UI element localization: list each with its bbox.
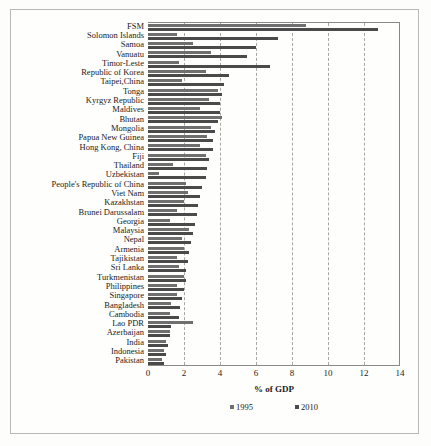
bar-1995: [148, 182, 186, 185]
bar-2010: [148, 65, 270, 68]
bar-1995: [148, 349, 164, 352]
bar-rows: [148, 23, 399, 365]
category-label: Samoa: [121, 40, 144, 49]
bar-1995: [148, 163, 173, 166]
x-tick-label: 4: [218, 368, 223, 378]
bar-2010: [148, 269, 186, 272]
legend-swatch-icon: [295, 405, 299, 409]
chart-area: FSMSolomon IslandsSamoaVanuatuTimor-Lest…: [20, 14, 410, 374]
bar-1995: [148, 42, 193, 45]
bar-2010: [148, 213, 197, 216]
legend-item-1995: 1995: [230, 402, 253, 412]
category-label: Singapore: [110, 291, 144, 300]
bar-1995: [148, 107, 200, 110]
bar-1995: [148, 237, 182, 240]
legend-item-2010: 2010: [295, 402, 318, 412]
bar-1995: [148, 51, 211, 54]
bar-2010: [148, 167, 207, 170]
bar-2010: [148, 241, 191, 244]
bar-row: [148, 312, 399, 321]
bar-1995: [148, 340, 166, 343]
bar-row: [148, 24, 399, 33]
bar-row: [148, 358, 399, 367]
category-axis-labels: FSMSolomon IslandsSamoaVanuatuTimor-Lest…: [20, 22, 146, 366]
bar-row: [148, 256, 399, 265]
bar-1995: [148, 172, 159, 175]
bar-2010: [148, 37, 278, 40]
bar-row: [148, 293, 399, 302]
bar-2010: [148, 204, 198, 207]
bar-row: [148, 42, 399, 51]
bar-1995: [148, 256, 177, 259]
bar-1995: [148, 144, 200, 147]
x-tick-label: 14: [396, 368, 405, 378]
legend-label: 1995: [236, 402, 253, 412]
bar-1995: [148, 116, 222, 119]
bar-1995: [148, 209, 177, 212]
bar-row: [148, 182, 399, 191]
bar-1995: [148, 126, 211, 129]
x-tick-label: 10: [324, 368, 333, 378]
bar-row: [148, 61, 399, 70]
bar-row: [148, 116, 399, 125]
bar-1995: [148, 321, 193, 324]
bar-1995: [148, 98, 209, 101]
category-label: Pakistan: [115, 356, 144, 365]
bar-2010: [148, 93, 222, 96]
x-tick-label: 6: [254, 368, 259, 378]
x-axis-ticks: 02468101214: [148, 368, 400, 382]
bar-2010: [148, 306, 180, 309]
bar-row: [148, 126, 399, 135]
bar-2010: [148, 120, 218, 123]
legend-swatch-icon: [230, 405, 234, 409]
chart-legend: 19952010: [148, 402, 400, 412]
bar-2010: [148, 362, 164, 365]
bar-row: [148, 135, 399, 144]
bar-row: [148, 51, 399, 60]
bar-2010: [148, 288, 184, 291]
bar-2010: [148, 251, 189, 254]
bar-1995: [148, 200, 184, 203]
bar-2010: [148, 111, 220, 114]
bar-2010: [148, 148, 213, 151]
category-label: Papua New Guinea: [78, 133, 144, 142]
bar-1995: [148, 293, 177, 296]
figure: FSMSolomon IslandsSamoaVanuatuTimor-Lest…: [0, 0, 431, 446]
bar-1995: [148, 70, 206, 73]
bar-1995: [148, 330, 170, 333]
category-label: Maldives: [112, 105, 144, 114]
bar-1995: [148, 61, 179, 64]
legend-label: 2010: [301, 402, 318, 412]
bar-row: [148, 247, 399, 256]
bar-1995: [148, 275, 184, 278]
bar-row: [148, 284, 399, 293]
x-tick-label: 12: [360, 368, 369, 378]
bar-1995: [148, 191, 188, 194]
bar-2010: [148, 186, 202, 189]
bar-2010: [148, 102, 220, 105]
bar-row: [148, 265, 399, 274]
bar-1995: [148, 228, 189, 231]
x-tick-label: 8: [290, 368, 295, 378]
bar-1995: [148, 89, 218, 92]
bar-1995: [148, 24, 306, 27]
bar-1995: [148, 247, 184, 250]
bar-row: [148, 33, 399, 42]
bar-row: [148, 70, 399, 79]
bar-row: [148, 154, 399, 163]
bar-1995: [148, 312, 170, 315]
bar-2010: [148, 260, 188, 263]
bar-2010: [148, 344, 168, 347]
bar-2010: [148, 316, 179, 319]
bar-2010: [148, 195, 200, 198]
bar-2010: [148, 279, 186, 282]
bar-1995: [148, 135, 207, 138]
bar-row: [148, 330, 399, 339]
bar-2010: [148, 74, 229, 77]
bar-row: [148, 275, 399, 284]
bar-1995: [148, 219, 170, 222]
bar-row: [148, 79, 399, 88]
bar-2010: [148, 46, 256, 49]
bar-row: [148, 219, 399, 228]
plot-area: [148, 22, 400, 366]
